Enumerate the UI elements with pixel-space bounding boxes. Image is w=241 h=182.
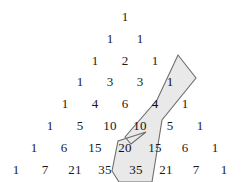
triangle-numbers-layer: 1111211331146411510105116152015611721353… [0,0,241,182]
triangle-cell-r7-c5: 21 [159,163,172,176]
triangle-cell-r4-c1: 4 [92,97,99,110]
triangle-cell-r6-c3: 20 [118,141,131,154]
triangle-cell-r2-c0: 1 [92,54,99,67]
triangle-cell-r6-c6: 1 [212,141,219,154]
triangle-cell-r4-c2: 6 [122,97,129,110]
triangle-cell-r1-c0: 1 [107,32,114,45]
triangle-cell-r2-c2: 1 [152,54,159,67]
triangle-cell-r7-c6: 7 [193,163,200,176]
triangle-cell-r3-c2: 3 [137,75,144,88]
pascals-triangle-figure: 1111211331146411510105116152015611721353… [0,0,241,182]
triangle-cell-r0-c0: 1 [122,10,129,23]
triangle-cell-r2-c1: 2 [122,54,129,67]
triangle-cell-r5-c0: 1 [47,119,54,132]
triangle-cell-r3-c0: 1 [77,75,84,88]
triangle-cell-r6-c1: 6 [61,141,68,154]
triangle-cell-r7-c2: 21 [68,163,81,176]
triangle-cell-r5-c5: 1 [197,119,204,132]
triangle-cell-r5-c1: 5 [77,119,84,132]
triangle-cell-r7-c7: 1 [221,163,228,176]
triangle-cell-r6-c2: 15 [88,141,101,154]
triangle-cell-r4-c3: 4 [152,97,159,110]
triangle-cell-r5-c4: 5 [167,119,174,132]
triangle-cell-r4-c0: 1 [62,97,69,110]
triangle-cell-r5-c3: 10 [133,119,146,132]
triangle-cell-r7-c1: 7 [42,163,49,176]
triangle-cell-r4-c4: 1 [182,97,189,110]
triangle-cell-r3-c3: 1 [167,75,174,88]
triangle-cell-r7-c0: 1 [13,163,20,176]
triangle-cell-r1-c1: 1 [137,32,144,45]
triangle-cell-r3-c1: 3 [107,75,114,88]
triangle-cell-r6-c0: 1 [31,141,38,154]
triangle-cell-r5-c2: 10 [103,119,116,132]
triangle-cell-r6-c4: 15 [148,141,161,154]
triangle-cell-r6-c5: 6 [182,141,189,154]
triangle-cell-r7-c3: 35 [98,163,111,176]
triangle-cell-r7-c4: 35 [129,163,142,176]
